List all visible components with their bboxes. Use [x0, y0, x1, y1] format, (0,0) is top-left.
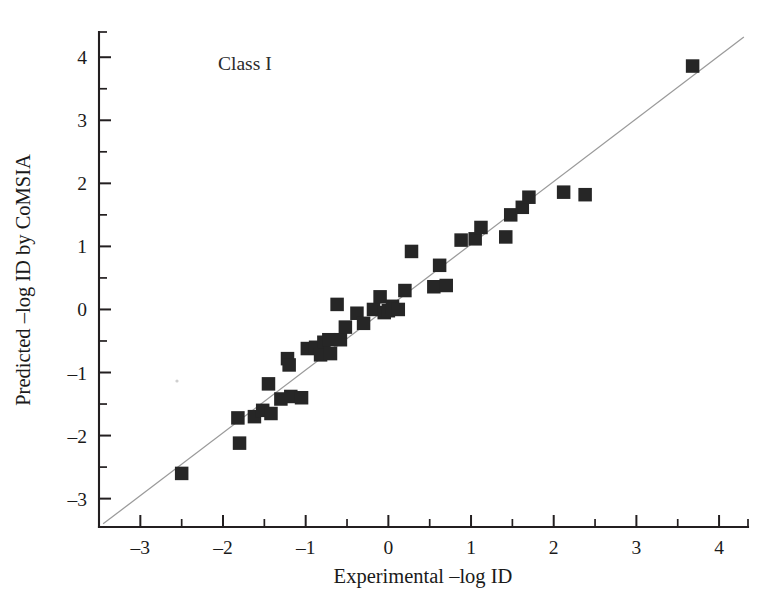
x-axis-title: Experimental –log ID	[334, 565, 513, 588]
data-point	[499, 230, 513, 244]
data-point	[264, 407, 278, 421]
data-point	[427, 280, 441, 294]
class-annotation: Class I	[218, 53, 272, 74]
data-point	[454, 233, 468, 247]
data-point	[231, 411, 245, 425]
data-point	[686, 59, 700, 73]
print-speck	[175, 379, 178, 382]
data-point	[175, 467, 189, 481]
x-tick-label: –1	[295, 537, 316, 558]
x-tick-label: 3	[632, 537, 642, 558]
data-point	[262, 377, 276, 391]
data-point	[324, 347, 338, 361]
data-point	[578, 188, 592, 202]
data-point	[373, 290, 387, 304]
data-point	[439, 279, 453, 293]
data-point	[233, 436, 247, 450]
data-point	[357, 317, 371, 331]
x-tick-label: 2	[549, 537, 559, 558]
x-tick-label: 4	[714, 537, 724, 558]
x-axis-ticks	[99, 515, 748, 527]
fit-line-group	[103, 37, 744, 524]
data-point	[392, 303, 406, 317]
data-point	[282, 358, 296, 372]
x-tick-label: –2	[212, 537, 233, 558]
data-point	[295, 391, 309, 405]
y-axis-ticks	[99, 32, 111, 499]
y-tick-label: 2	[77, 173, 87, 194]
data-point	[322, 333, 336, 347]
data-point	[522, 190, 536, 204]
data-point	[433, 259, 447, 273]
y-axis-title: Predicted –log ID by CoMSIA	[12, 154, 35, 406]
data-point	[339, 320, 353, 334]
y-axis-tick-labels: –3–2–101234	[67, 47, 88, 509]
y-tick-label: 1	[77, 236, 87, 257]
data-point	[504, 208, 518, 222]
y-tick-label: 4	[77, 47, 87, 68]
data-point	[474, 221, 488, 235]
x-tick-label: –3	[130, 537, 151, 558]
y-tick-label: 0	[77, 299, 87, 320]
data-point	[557, 185, 571, 199]
y-tick-label: 3	[77, 110, 87, 131]
x-tick-label: 0	[383, 537, 393, 558]
data-point	[334, 333, 348, 347]
x-axis-tick-labels: –3–2–101234	[130, 537, 725, 558]
data-point-group	[175, 59, 699, 480]
data-point	[330, 298, 344, 312]
scatter-plot-svg: –3–2–101234 –3–2–101234 Experimental –lo…	[0, 0, 773, 611]
y-tick-label: –3	[67, 489, 88, 510]
data-point	[398, 284, 412, 298]
chart-figure: –3–2–101234 –3–2–101234 Experimental –lo…	[0, 0, 773, 611]
y-tick-label: –2	[67, 426, 88, 447]
regression-line	[103, 37, 744, 524]
x-tick-label: 1	[466, 537, 476, 558]
data-point	[405, 245, 419, 259]
y-tick-label: –1	[67, 363, 88, 384]
